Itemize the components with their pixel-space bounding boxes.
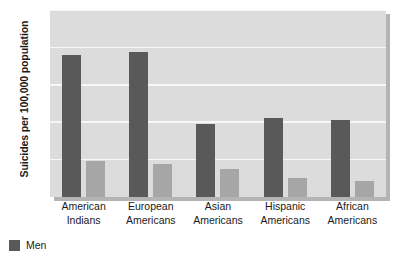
bar-men (264, 118, 283, 197)
x-category-label: AsianAmericans (184, 200, 251, 227)
bar-group (117, 10, 184, 197)
x-category-label: AfricanAmericans (319, 200, 386, 227)
x-axis-category-labels: AmericanIndiansEuropeanAmericansAsianAme… (50, 200, 386, 234)
bar-group (50, 10, 117, 197)
bar-men (331, 120, 350, 197)
legend-label-men: Men (26, 239, 46, 251)
bar-women (86, 161, 105, 197)
x-category-label: HispanicAmericans (252, 200, 319, 227)
legend-swatch-men (9, 240, 20, 251)
bar-group (319, 10, 386, 197)
bar-men (196, 124, 215, 197)
bar-chart-figure: Suicides per 100,000 population 51015202… (0, 0, 400, 257)
plot-area-wrapper (50, 10, 386, 197)
chart-legend: Men (9, 239, 46, 251)
bar-group (252, 10, 319, 197)
x-category-label: EuropeanAmericans (117, 200, 184, 227)
bar-women (355, 181, 374, 197)
bar-group (184, 10, 251, 197)
bar-women (153, 164, 172, 197)
x-category-label: AmericanIndians (50, 200, 117, 227)
plot-area (50, 10, 386, 197)
bar-women (220, 169, 239, 197)
bar-men (129, 52, 148, 197)
bar-women (288, 178, 307, 197)
bar-men (62, 55, 81, 197)
